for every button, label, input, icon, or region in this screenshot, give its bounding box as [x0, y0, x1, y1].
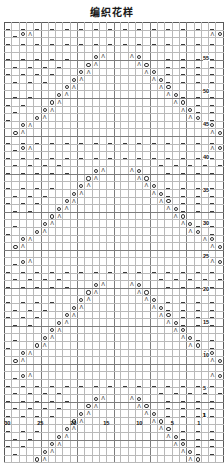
chart-cell-knit-stitch [48, 243, 55, 251]
chart-cell-knit-stitch [19, 220, 26, 228]
chart-cell-knit-stitch [216, 228, 224, 236]
chart-cell-purl-stitch [194, 334, 201, 342]
chart-cell-knit-stitch [78, 349, 85, 357]
chart-cell-knit-stitch [92, 349, 99, 357]
chart-row: ΛΛ [5, 114, 224, 122]
chart-cell-knit-stitch [34, 357, 41, 365]
chart-row: ΛΛ [5, 212, 224, 220]
chart-cell-yarn-over [143, 60, 150, 68]
chart-cell-purl-stitch [194, 326, 201, 334]
chart-cell-purl-stitch [12, 402, 19, 410]
chart-cell-knit-stitch [172, 76, 179, 84]
chart-cell-purl-stitch [5, 228, 12, 236]
chart-cell-knit-stitch [70, 205, 77, 213]
decrease-icon: Λ [72, 84, 76, 91]
chart-cell-purl-stitch [5, 136, 12, 144]
decrease-icon: Λ [137, 289, 141, 296]
chart-cell-knit-stitch [63, 357, 70, 365]
chart-row: ΛΛ [5, 182, 224, 190]
yarn-over-icon [65, 313, 69, 317]
chart-cell-knit-stitch [172, 83, 179, 91]
chart-cell-purl-stitch [179, 38, 186, 46]
chart-cell-purl-stitch [56, 45, 63, 53]
chart-cell-knit-stitch [26, 182, 33, 190]
chart-cell-knit-stitch [12, 38, 19, 46]
chart-cell-knit-stitch [70, 136, 77, 144]
chart-cell-knit-stitch [12, 98, 19, 106]
chart-cell-knit-stitch [194, 121, 201, 129]
chart-cell-purl-stitch [48, 296, 55, 304]
chart-cell-knit-stitch [41, 30, 48, 38]
chart-row: ΛΛ [5, 349, 224, 357]
chart-cell-knit-stitch [85, 106, 92, 114]
chart-cell-knit-stitch [150, 387, 157, 395]
chart-cell-knit-stitch [48, 319, 55, 327]
chart-cell-knit-stitch [19, 159, 26, 167]
chart-cell-knit-stitch [121, 167, 128, 175]
chart-cell-yarn-over [136, 281, 143, 289]
chart-cell-knit-stitch [56, 364, 63, 372]
chart-cell-knit-stitch [12, 341, 19, 349]
chart-cell-knit-stitch [150, 243, 157, 251]
chart-row: ΛΛ [5, 395, 224, 403]
chart-cell-yarn-over [19, 349, 26, 357]
chart-cell-knit-stitch [114, 281, 121, 289]
chart-cell-purl-stitch [26, 387, 33, 395]
chart-cell-purl-stitch [63, 152, 70, 160]
chart-cell-knit-stitch [179, 121, 186, 129]
chart-cell-knit-stitch [187, 197, 194, 205]
chart-cell-knit-stitch [63, 129, 70, 137]
chart-cell-knit-stitch [187, 258, 194, 266]
chart-cell-purl-stitch [12, 106, 19, 114]
chart-cell-knit-stitch [216, 60, 224, 68]
chart-cell-knit-stitch [136, 334, 143, 342]
chart-cell-knit-stitch [136, 144, 143, 152]
chart-grid: ΛΛΛΛΛΛΛΛΛΛΛΛΛΛΛΛΛΛΛΛΛΛΛΛΛΛΛΛΛΛΛΛΛΛΛΛΛΛΛΛ… [4, 22, 224, 463]
chart-cell-yarn-over [78, 410, 85, 418]
chart-cell-knit-stitch [150, 395, 157, 403]
chart-cell-decrease: Λ [26, 121, 33, 129]
chart-cell-knit-stitch [70, 144, 77, 152]
chart-cell-knit-stitch [26, 106, 33, 114]
chart-cell-knit-stitch [12, 266, 19, 274]
chart-cell-purl-stitch [157, 273, 164, 281]
chart-cell-purl-stitch [209, 402, 216, 410]
chart-cell-decrease: Λ [172, 98, 179, 106]
chart-cell-knit-stitch [187, 174, 194, 182]
chart-cell-knit-stitch [143, 205, 150, 213]
chart-cell-knit-stitch [63, 288, 70, 296]
chart-cell-purl-stitch [179, 152, 186, 160]
yarn-over-icon [218, 131, 222, 135]
chart-cell-knit-stitch [187, 379, 194, 387]
chart-row: ΛΛ [5, 129, 224, 137]
chart-cell-knit-stitch [201, 433, 208, 441]
chart-cell-knit-stitch [143, 212, 150, 220]
decrease-icon: Λ [57, 441, 61, 448]
chart-cell-knit-stitch [92, 357, 99, 365]
chart-cell-knit-stitch [121, 76, 128, 84]
chart-cell-knit-stitch [100, 334, 107, 342]
chart-cell-purl-stitch [48, 410, 55, 418]
chart-cell-knit-stitch [5, 402, 12, 410]
chart-cell-yarn-over [41, 220, 48, 228]
chart-cell-knit-stitch [179, 144, 186, 152]
decrease-icon: Λ [101, 167, 105, 174]
chart-cell-knit-stitch [100, 326, 107, 334]
decrease-icon: Λ [188, 456, 192, 463]
chart-cell-knit-stitch [34, 30, 41, 38]
chart-cell-knit-stitch [48, 114, 55, 122]
chart-cell-knit-stitch [128, 250, 135, 258]
chart-cell-knit-stitch [194, 349, 201, 357]
chart-cell-purl-stitch [150, 136, 157, 144]
chart-cell-knit-stitch [63, 448, 70, 456]
chart-cell-knit-stitch [63, 410, 70, 418]
chart-cell-decrease: Λ [187, 228, 194, 236]
chart-cell-knit-stitch [121, 106, 128, 114]
decrease-icon: Λ [94, 61, 98, 68]
chart-cell-knit-stitch [63, 402, 70, 410]
chart-cell-knit-stitch [201, 448, 208, 456]
chart-cell-yarn-over [12, 129, 19, 137]
chart-cell-knit-stitch [165, 45, 172, 53]
chart-cell-knit-stitch [143, 372, 150, 380]
chart-cell-knit-stitch [100, 30, 107, 38]
